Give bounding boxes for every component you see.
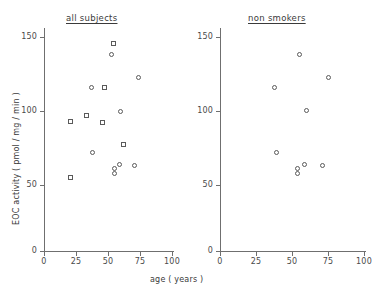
y-ticklabel-0-right: 0 xyxy=(192,247,213,255)
y-axis-line-left xyxy=(44,28,45,252)
data-point-circle xyxy=(109,52,114,57)
data-point-circle xyxy=(274,150,279,155)
data-point-square xyxy=(84,113,89,118)
data-point-circle xyxy=(295,171,300,176)
data-point-circle xyxy=(297,52,302,57)
data-point-square xyxy=(121,142,126,147)
y-tick-150-right xyxy=(216,37,220,38)
data-point-circle xyxy=(89,85,94,90)
x-ticklabel-100-right: 100 xyxy=(354,258,373,266)
x-tick-100-right xyxy=(364,252,365,256)
data-point-square xyxy=(111,41,116,46)
y-tick-150-left xyxy=(40,37,44,38)
x-tick-100-left xyxy=(172,252,173,256)
y-ticklabel-50-right: 50 xyxy=(192,181,213,189)
panel-all-subjects: all subjects 0 50 100 150 0 25 50 75 100… xyxy=(0,0,190,294)
y-ticklabel-0-left: 0 xyxy=(16,247,37,255)
x-tick-50-right xyxy=(292,252,293,256)
data-point-square xyxy=(100,120,105,125)
x-tick-25-left xyxy=(76,252,77,256)
y-tick-100-left xyxy=(40,111,44,112)
data-point-circle xyxy=(272,85,277,90)
x-tick-50-left xyxy=(108,252,109,256)
x-ticklabel-0-right: 0 xyxy=(210,258,230,266)
y-ticklabel-100-right: 100 xyxy=(192,107,213,115)
y-ticklabel-150-left: 150 xyxy=(16,33,37,41)
x-ticklabel-0-left: 0 xyxy=(34,258,54,266)
x-ticklabel-50-right: 50 xyxy=(282,258,302,266)
data-point-circle xyxy=(304,108,309,113)
data-point-circle xyxy=(132,163,137,168)
data-point-square xyxy=(68,119,73,124)
x-tick-75-left xyxy=(140,252,141,256)
x-ticklabel-100-left: 100 xyxy=(162,258,182,266)
data-point-circle xyxy=(136,75,141,80)
panel-non-smokers: non smokers 0 50 100 150 0 25 50 75 100 xyxy=(190,0,373,294)
x-ticklabel-75-right: 75 xyxy=(318,258,338,266)
panel-title-all-subjects: all subjects xyxy=(66,14,117,23)
figure-scatter-eoc-activity: all subjects 0 50 100 150 0 25 50 75 100… xyxy=(0,0,373,294)
x-ticklabel-25-left: 25 xyxy=(66,258,86,266)
data-point-square xyxy=(68,175,73,180)
x-tick-0-left xyxy=(44,252,45,256)
data-point-circle xyxy=(117,162,122,167)
panel-title-non-smokers: non smokers xyxy=(248,14,306,23)
x-ticklabel-50-left: 50 xyxy=(98,258,118,266)
data-point-circle xyxy=(302,162,307,167)
data-point-circle xyxy=(295,166,300,171)
data-point-circle xyxy=(118,109,123,114)
y-axis-title: EOC activity ( pmol / mg / min ) xyxy=(12,92,21,225)
x-axis-line-right xyxy=(220,251,366,252)
data-point-circle xyxy=(112,166,117,171)
data-point-circle xyxy=(90,150,95,155)
x-ticklabel-25-right: 25 xyxy=(246,258,266,266)
y-tick-50-left xyxy=(40,185,44,186)
data-point-square xyxy=(102,85,107,90)
data-point-circle xyxy=(112,171,117,176)
x-tick-25-right xyxy=(256,252,257,256)
x-axis-title: age ( years ) xyxy=(150,275,203,284)
data-point-circle xyxy=(326,75,331,80)
x-axis-line-left xyxy=(44,251,174,252)
y-ticklabel-150-right: 150 xyxy=(192,33,213,41)
x-ticklabel-75-left: 75 xyxy=(130,258,150,266)
y-tick-100-right xyxy=(216,111,220,112)
x-tick-75-right xyxy=(328,252,329,256)
y-tick-50-right xyxy=(216,185,220,186)
x-tick-0-right xyxy=(220,252,221,256)
data-point-circle xyxy=(320,163,325,168)
y-axis-line-right xyxy=(220,28,221,252)
